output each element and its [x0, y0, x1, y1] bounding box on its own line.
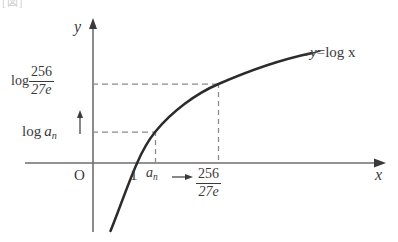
up-arrow-head — [77, 110, 83, 118]
y-tick-log-prefix-2: log — [22, 123, 41, 139]
figure-canvas: [図] y x y=log x log25627e logan O 1 an 2… — [0, 0, 398, 242]
x-tick-an-base: a — [146, 165, 153, 180]
y-tick-an-base: a — [44, 123, 52, 139]
curve-label-logx: log x — [325, 44, 355, 60]
fraction-numerator: 256 — [29, 65, 54, 82]
x-tick-label-256-27e: 25627e — [196, 168, 221, 200]
fraction-denominator: 27e — [29, 82, 54, 98]
curve-label-equals: = — [317, 44, 325, 60]
x-fraction-denominator: 27e — [196, 184, 221, 200]
log-curve — [111, 53, 312, 231]
y-tick-log-prefix: log — [11, 73, 29, 88]
log-curve-diagram — [0, 0, 398, 242]
x-tick-label-an: an — [146, 166, 158, 182]
x-axis-label: x — [375, 167, 382, 183]
x-tick-label-one: 1 — [130, 168, 138, 183]
y-axis-label: y — [74, 19, 81, 35]
y-axis-arrowhead — [89, 18, 97, 29]
y-tick-an-subscript: n — [52, 130, 57, 141]
y-tick-label-log-an: logan — [22, 124, 57, 141]
curve-label-y: y — [310, 44, 317, 60]
x-axis-limit-arrow — [172, 172, 194, 182]
y-tick-label-log-256-27e: log25627e — [11, 66, 54, 98]
caption-tag: [図] — [2, 0, 23, 8]
curve-equation-label: y=log x — [310, 45, 356, 60]
fraction-256-27e: 25627e — [29, 65, 54, 97]
origin-label: O — [74, 168, 85, 183]
x-fraction-numerator: 256 — [196, 167, 221, 184]
x-fraction-256-27e: 25627e — [196, 167, 221, 199]
x-tick-an-subscript: n — [153, 172, 158, 182]
